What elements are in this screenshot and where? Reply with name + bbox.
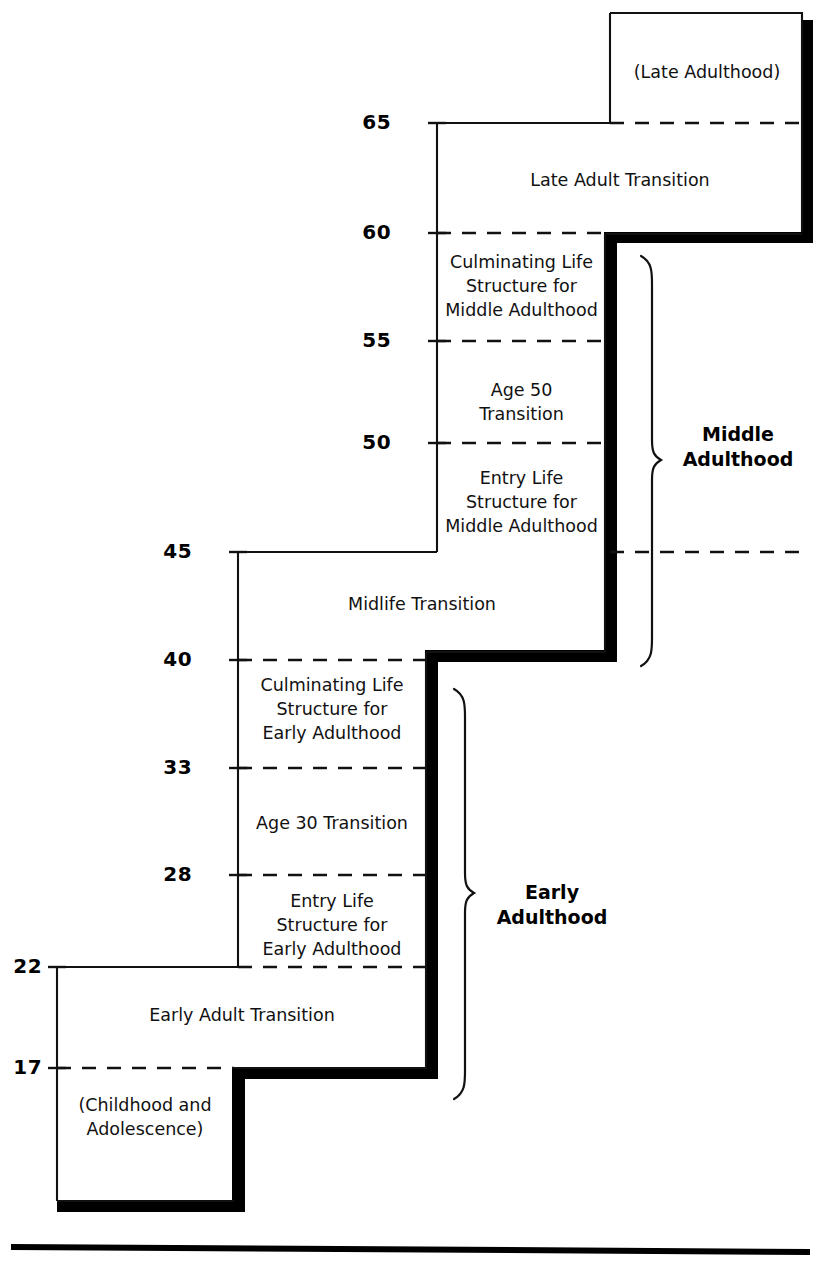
period-label-culminating-early: Culminating Life Structure for Early Adu… xyxy=(238,673,426,745)
tick-label-45: 45 xyxy=(152,539,192,563)
era-label-early-adulthood: Early Adulthood xyxy=(482,880,622,930)
tick-label-22: 22 xyxy=(2,954,42,978)
tick-label-17: 17 xyxy=(2,1055,42,1079)
outline-65-step xyxy=(437,13,610,123)
period-label-entry-middle: Entry Life Structure for Middle Adulthoo… xyxy=(438,466,605,538)
period-label-midlife-transition: Midlife Transition xyxy=(238,592,606,616)
tick-label-55: 55 xyxy=(351,328,391,352)
tick-label-28: 28 xyxy=(152,862,192,886)
tick-label-60: 60 xyxy=(351,220,391,244)
period-label-childhood: (Childhood and Adolescence) xyxy=(57,1093,233,1141)
brace-middle-adulthood xyxy=(641,256,661,666)
shadow-late-right xyxy=(802,20,813,243)
tick-label-50: 50 xyxy=(351,430,391,454)
period-label-age-50-transition: Age 50 Transition xyxy=(438,378,605,426)
era-label-middle-adulthood: Middle Adulthood xyxy=(668,422,808,472)
tick-label-40: 40 xyxy=(152,647,192,671)
tick-label-33: 33 xyxy=(152,755,192,779)
shadow-childhood-stem xyxy=(232,1067,245,1212)
period-label-entry-early: Entry Life Structure for Early Adulthood xyxy=(238,889,426,961)
period-label-age-30-transition: Age 30 Transition xyxy=(238,811,426,835)
period-label-late-adulthood: (Late Adulthood) xyxy=(612,60,802,84)
period-label-late-adult-transition: Late Adult Transition xyxy=(438,168,802,192)
diagram-canvas: 65 60 55 50 45 40 33 28 22 17 (Late Adul… xyxy=(0,0,820,1266)
shadow-layer xyxy=(57,20,813,1212)
period-label-early-adult-transition: Early Adult Transition xyxy=(57,1003,427,1027)
period-label-culminating-middle: Culminating Life Structure for Middle Ad… xyxy=(438,250,605,322)
tick-label-65: 65 xyxy=(351,110,391,134)
baseline-rule xyxy=(11,1247,810,1252)
brace-early-adulthood xyxy=(454,689,474,1099)
